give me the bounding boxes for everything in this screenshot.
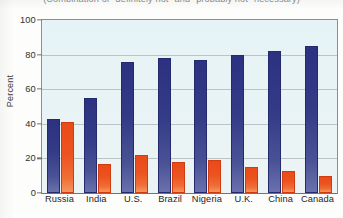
bar [84,98,97,193]
x-axis-label: Russia [41,194,78,204]
bar-group [42,20,79,193]
bar [208,160,221,193]
bar [172,162,185,193]
bar-group [190,20,227,193]
x-axis-labels: RussiaIndiaU.S.BrazilNigeriaU.K.ChinaCan… [41,194,336,204]
bar [194,60,207,193]
bar [121,62,134,193]
chart-title-text: (Combination of "definitely not" and "pr… [43,0,300,4]
bar [245,167,258,193]
y-axis-title: Percent [5,61,15,121]
bar-group [226,20,263,193]
x-axis-label: Nigeria [189,194,226,204]
bar [305,46,318,193]
bar [47,119,60,193]
bar [158,58,171,193]
bar-group [79,20,116,193]
bar-group [263,20,300,193]
bar-group [153,20,190,193]
x-axis-label: China [262,194,299,204]
x-axis-label: Brazil [152,194,189,204]
x-axis-label: U.K. [225,194,262,204]
bar [98,164,111,193]
bar-groups [42,20,337,193]
bar-chart: (Combination of "definitely not" and "pr… [0,0,343,218]
x-axis-label: India [78,194,115,204]
chart-title-clipped: (Combination of "definitely not" and "pr… [0,0,343,7]
bar [231,55,244,193]
bar [268,51,281,193]
x-axis-label: U.S. [115,194,152,204]
bar-group [116,20,153,193]
plot-area: 020406080100 [41,19,338,194]
bar [61,122,74,193]
x-axis-label: Canada [299,194,336,204]
bar [319,176,332,193]
bar [135,155,148,193]
bar [282,171,295,193]
bar-group [300,20,337,193]
